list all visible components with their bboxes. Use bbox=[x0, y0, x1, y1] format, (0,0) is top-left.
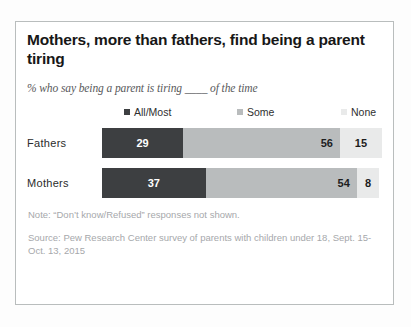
table-row: Mothers 37 54 8 bbox=[27, 168, 382, 198]
chart-subtitle: % who say being a parent is tiring ____ … bbox=[27, 82, 382, 94]
chart-source: Source: Pew Research Center survey of pa… bbox=[28, 231, 382, 257]
legend-swatch-icon-all-most bbox=[124, 109, 130, 115]
bar-segment-fathers-none: 15 bbox=[340, 128, 382, 158]
chart-legend: All/Most Some None bbox=[27, 106, 382, 122]
bar-segment-mothers-all-most: 37 bbox=[102, 168, 206, 198]
legend-label-all-most: All/Most bbox=[134, 106, 171, 118]
legend-swatch-icon-none bbox=[341, 109, 347, 115]
bar-category-label-mothers: Mothers bbox=[27, 177, 102, 189]
chart-plot-area: Fathers 29 56 15 Mothers 37 54 8 bbox=[27, 128, 382, 198]
legend-label-none: None bbox=[351, 106, 376, 118]
legend-swatch-icon-some bbox=[237, 109, 243, 115]
chart-card: Mothers, more than fathers, find being a… bbox=[15, 21, 394, 305]
chart-footnotes: Note: “Don’t know/Refused” responses not… bbox=[27, 209, 382, 257]
legend-item-all-most: All/Most bbox=[124, 106, 171, 118]
bar-track-mothers: 37 54 8 bbox=[102, 168, 382, 198]
chart-card-inner: Mothers, more than fathers, find being a… bbox=[16, 22, 393, 257]
legend-item-some: Some bbox=[237, 106, 274, 118]
chart-note: Note: “Don’t know/Refused” responses not… bbox=[28, 209, 382, 222]
table-row: Fathers 29 56 15 bbox=[27, 128, 382, 158]
bar-category-label-fathers: Fathers bbox=[27, 137, 102, 149]
page-background: Mothers, more than fathers, find being a… bbox=[0, 0, 411, 327]
bar-segment-fathers-some: 56 bbox=[183, 128, 340, 158]
page-title: Mothers, more than fathers, find being a… bbox=[27, 31, 382, 69]
bar-segment-mothers-none: 8 bbox=[357, 168, 379, 198]
legend-label-some: Some bbox=[247, 106, 274, 118]
bar-segment-mothers-some: 54 bbox=[206, 168, 357, 198]
bar-segment-fathers-all-most: 29 bbox=[102, 128, 183, 158]
bar-track-fathers: 29 56 15 bbox=[102, 128, 382, 158]
legend-item-none: None bbox=[341, 106, 376, 118]
